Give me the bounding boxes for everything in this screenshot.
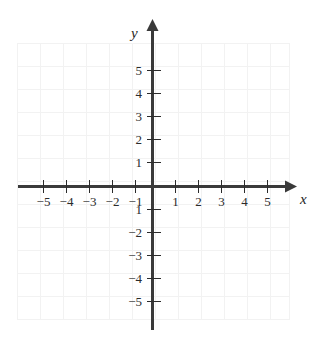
y-tick-label--3: −3 [121, 249, 142, 262]
x-tick-label-1: 1 [169, 195, 182, 208]
x-tick-label-5: 5 [261, 195, 274, 208]
y-tick-label-5: 5 [124, 64, 142, 77]
y-axis-label: y [131, 26, 138, 41]
x-tick-label-4: 4 [238, 195, 251, 208]
y-tick-label--2: −2 [121, 226, 142, 239]
x-tick-label-2: 2 [192, 195, 205, 208]
y-tick-label--4: −4 [121, 272, 142, 285]
x-tick-label--2: −2 [102, 195, 123, 208]
labels-layer: y x −5 −4 −3 −2 −1 1 2 3 4 5 5 4 3 2 1 1… [0, 0, 323, 338]
x-tick-label-3: 3 [215, 195, 228, 208]
x-axis-label: x [300, 192, 307, 207]
y-tick-label-3: 3 [124, 110, 142, 123]
y-tick-label--1: 1 [131, 203, 142, 216]
y-tick-label--5: −5 [121, 295, 142, 308]
x-tick-label--5: −5 [33, 195, 54, 208]
y-tick-label-2: 2 [124, 133, 142, 146]
x-tick-label--4: −4 [56, 195, 77, 208]
y-tick-label-4: 4 [124, 87, 142, 100]
y-tick-label-1: 1 [124, 156, 142, 169]
x-tick-label--3: −3 [79, 195, 100, 208]
coordinate-plane-figure: y x −5 −4 −3 −2 −1 1 2 3 4 5 5 4 3 2 1 1… [0, 0, 323, 338]
